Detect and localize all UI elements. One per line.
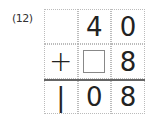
answer-blank-box[interactable] <box>83 50 105 73</box>
cell-r3-c3: 8 <box>111 79 145 114</box>
addition-grid: 4 0 + 8 | 0 8 <box>44 9 145 114</box>
cell-r3-c2: 0 <box>78 79 112 114</box>
plus-operator: + <box>44 44 78 79</box>
cell-r1-c3: 0 <box>111 9 145 44</box>
cell-r3-c1: | <box>44 79 78 114</box>
cell-r2-c3: 8 <box>111 44 145 79</box>
sum-digit-hundreds: | <box>53 82 69 112</box>
problem-number: (12) <box>12 12 33 25</box>
cell-r1-c1 <box>44 9 78 44</box>
cell-r2-c2 <box>78 44 112 79</box>
sum-divider-line <box>44 79 145 81</box>
cell-r1-c2: 4 <box>78 9 112 44</box>
